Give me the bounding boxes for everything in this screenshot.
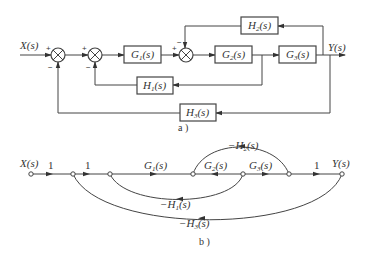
branch-arrow-1 bbox=[46, 172, 53, 176]
sum2-minus-sign: − bbox=[86, 63, 91, 72]
signal-flow-graph-b: X(s) 1 1 G1(s) G2(s) G3(s) 1 Y(s) −H2(s)… bbox=[19, 139, 350, 248]
summing-junction-3 bbox=[179, 48, 193, 62]
node-5 bbox=[287, 172, 291, 176]
branch-arrow-out bbox=[313, 172, 320, 176]
node-3 bbox=[191, 172, 195, 176]
node-1 bbox=[71, 172, 75, 176]
output-label-b: Y(s) bbox=[332, 157, 350, 170]
branch-arrow-2 bbox=[83, 172, 90, 176]
summing-junction-2 bbox=[88, 48, 102, 62]
branch-label-g3: G3(s) bbox=[249, 159, 272, 173]
caption-a: a ) bbox=[178, 122, 188, 134]
sum2-plus-sign: + bbox=[82, 44, 87, 53]
block-g1-label: G1(s) bbox=[131, 48, 154, 62]
h2-feedback-path-out bbox=[185, 26, 241, 48]
sum3-minus-sign: − bbox=[177, 38, 182, 47]
block-g3-label: G3(s) bbox=[286, 48, 309, 62]
branch-label-2: 1 bbox=[85, 159, 91, 171]
branch-arrow-g3 bbox=[262, 172, 269, 176]
node-4 bbox=[241, 172, 245, 176]
block-h2-label: H2(s) bbox=[247, 19, 271, 33]
block-h3-label: H3(s) bbox=[185, 106, 209, 120]
block-g2-label: G2(s) bbox=[222, 48, 245, 62]
node-2 bbox=[108, 172, 112, 176]
node-y bbox=[340, 172, 344, 176]
input-label-a: X(s) bbox=[19, 39, 39, 52]
node-x bbox=[29, 172, 33, 176]
branch-label-g2: G2(s) bbox=[204, 159, 227, 173]
branch-label-g1: G1(s) bbox=[144, 159, 167, 173]
branch-label-1: 1 bbox=[48, 159, 54, 171]
h2-branch-label: −H2(s) bbox=[228, 139, 259, 153]
h1-feedback-path-out bbox=[95, 62, 137, 85]
branch-label-out: 1 bbox=[314, 159, 320, 171]
block-diagram-a: X(s) + − + − G1(s) + − bbox=[19, 17, 346, 134]
h3-feedback-path-in bbox=[216, 55, 330, 113]
output-label-a: Y(s) bbox=[328, 41, 346, 54]
summing-junction-1 bbox=[51, 48, 65, 62]
caption-b: b ) bbox=[199, 236, 210, 248]
input-label-b: X(s) bbox=[19, 157, 39, 170]
control-system-figure: X(s) + − + − G1(s) + − bbox=[0, 0, 369, 259]
sum1-minus-sign: − bbox=[48, 63, 53, 72]
h1-feedback-arc bbox=[110, 174, 243, 200]
sum1-plus-sign: + bbox=[46, 44, 51, 53]
h1-branch-label: −H1(s) bbox=[160, 198, 191, 212]
block-h1-label: H1(s) bbox=[142, 79, 166, 93]
